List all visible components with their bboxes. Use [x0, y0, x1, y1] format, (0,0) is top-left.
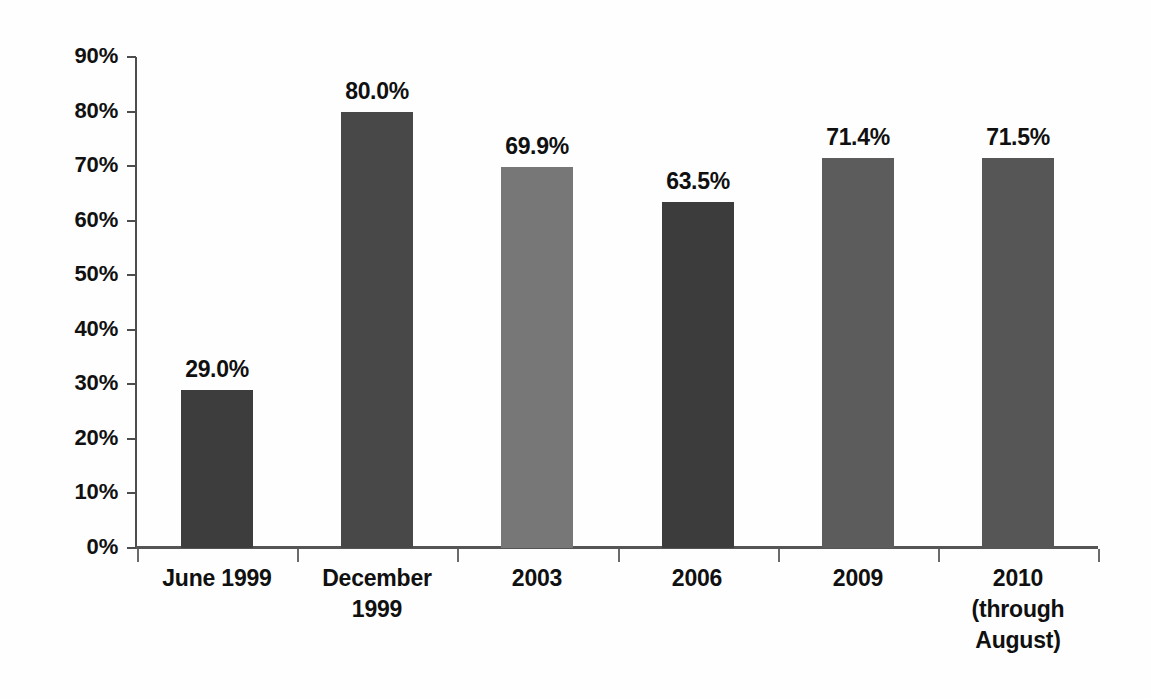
y-axis-tick-mark: [127, 274, 136, 276]
bar[interactable]: 63.5%: [662, 202, 734, 548]
bar-value-label: 80.0%: [345, 78, 409, 105]
y-axis-tick-label: 20%: [28, 425, 118, 451]
y-axis-tick-mark: [127, 56, 136, 58]
bar[interactable]: 69.9%: [501, 167, 573, 548]
y-axis-tick-mark: [127, 492, 136, 494]
bar-value-label: 29.0%: [185, 356, 249, 383]
y-axis-tick-label: 90%: [28, 43, 118, 69]
y-axis-tick-mark: [127, 438, 136, 440]
y-axis-tick-mark: [127, 547, 136, 549]
x-axis-tick-mark: [938, 549, 940, 562]
y-axis-tick-mark: [127, 383, 136, 385]
bar-value-label: 71.5%: [986, 124, 1050, 151]
x-axis-tick-mark: [618, 549, 620, 562]
category-label: 2003: [457, 563, 617, 594]
y-axis-tick-mark: [127, 111, 136, 113]
x-axis-tick-mark: [137, 549, 139, 562]
y-axis-tick-label: 10%: [28, 479, 118, 505]
y-axis-line: [135, 57, 137, 548]
category-label: 2006: [617, 563, 777, 594]
y-axis-tick-label: 40%: [28, 316, 118, 342]
x-axis-tick-mark: [1098, 549, 1100, 562]
bar[interactable]: 71.5%: [982, 158, 1054, 548]
bar[interactable]: 29.0%: [181, 390, 253, 548]
bar[interactable]: 71.4%: [822, 158, 894, 548]
x-axis-tick-mark: [457, 549, 459, 562]
x-axis-tick-mark: [778, 549, 780, 562]
y-axis-tick-label: 70%: [28, 152, 118, 178]
category-label: December 1999: [297, 563, 457, 625]
y-axis-tick-label: 50%: [28, 261, 118, 287]
bar-value-label: 69.9%: [505, 133, 569, 160]
bar-value-label: 71.4%: [826, 124, 890, 151]
y-axis-tick-label: 80%: [28, 98, 118, 124]
y-axis-tick-label: 60%: [28, 207, 118, 233]
y-axis-tick-label: 30%: [28, 370, 118, 396]
category-label: June 1999: [137, 563, 297, 594]
y-axis-tick-mark: [127, 329, 136, 331]
y-axis-tick-mark: [127, 220, 136, 222]
bar-value-label: 63.5%: [666, 168, 730, 195]
bar[interactable]: 80.0%: [341, 112, 413, 548]
y-axis-tick-mark: [127, 165, 136, 167]
y-axis-tick-label: 0%: [28, 534, 118, 560]
bar-chart: 90%80%70%60%50%40%30%20%10%0% 29.0%80.0%…: [0, 0, 1151, 699]
category-label: 2010 (through August): [938, 563, 1098, 656]
category-label: 2009: [778, 563, 938, 594]
x-axis-tick-mark: [297, 549, 299, 562]
